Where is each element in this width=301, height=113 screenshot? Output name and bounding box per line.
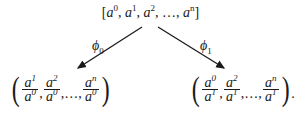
homogeneous-coordinates: [a0, a1, a2, …, an] — [0, 5, 301, 21]
fraction: an a1 — [263, 76, 279, 103]
fraction: an a0 — [83, 76, 99, 103]
phi1-arrow — [158, 27, 224, 68]
fraction: a0 a1 — [202, 76, 218, 103]
phi0-arrow — [78, 27, 142, 68]
left-tuple: ( a1 a0 , a2 a0 ,…, an a0 ) — [10, 72, 111, 106]
phi1-label: ϕ1 — [200, 38, 212, 56]
phi0-label: ϕ0 — [92, 38, 104, 56]
fraction: a1 a0 — [22, 76, 38, 103]
right-tuple: ( a0 a1 , a2 a1 ,…, an a1 ) . — [190, 72, 295, 106]
fraction: a2 a0 — [44, 76, 60, 103]
fraction: a2 a1 — [224, 76, 240, 103]
